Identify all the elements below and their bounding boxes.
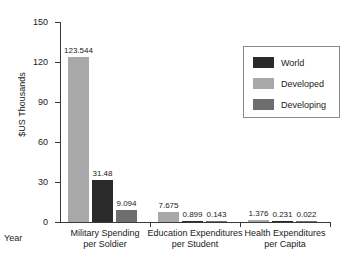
bar-value-label: 31.48 <box>73 170 133 178</box>
bar-developing[interactable] <box>296 221 317 222</box>
y-tick-label-wrap: 150 <box>0 18 60 19</box>
bar-world[interactable] <box>182 221 203 222</box>
legend-swatch-icon <box>253 57 274 68</box>
y-tick-label-wrap: 90 <box>0 98 60 99</box>
bar-developing[interactable] <box>116 210 137 222</box>
bar-value-label: 123.544 <box>49 47 109 55</box>
legend-label: Developing <box>281 100 326 110</box>
bar-developing[interactable] <box>206 221 227 222</box>
bar-developed[interactable] <box>68 57 89 222</box>
y-tick-label-wrap: 60 <box>0 138 60 139</box>
bar-value-label: 0.022 <box>277 211 337 219</box>
y-tick-label: 30 <box>20 178 48 187</box>
bar-group: 123.54431.489.094 <box>60 22 150 222</box>
legend-swatch-icon <box>253 99 274 110</box>
y-tick-label: 150 <box>20 18 48 27</box>
x-axis-line <box>60 222 330 223</box>
legend-label: Developed <box>281 79 324 89</box>
category-label-line: per Capita <box>228 239 342 250</box>
x-tick-mark-end <box>330 222 331 227</box>
y-tick-label-wrap: 0 <box>0 218 60 219</box>
category-label-line: Health Expenditures <box>228 228 342 239</box>
y-tick-label-wrap: 120 <box>0 58 60 59</box>
legend-swatch-icon <box>253 78 274 89</box>
bar-developed[interactable] <box>248 220 269 222</box>
bar-group: 7.6750.8990.143 <box>150 22 240 222</box>
x-tick-mark <box>150 222 151 227</box>
y-axis-title: $US Thousands <box>18 35 27 175</box>
x-tick-mark <box>240 222 241 227</box>
category-label: Health Expendituresper Capita <box>228 228 342 250</box>
bar-world[interactable] <box>272 221 293 222</box>
bar-value-label: 7.675 <box>139 202 199 210</box>
y-tick-label: 0 <box>20 218 48 227</box>
bar-chart: 0306090120150 $US Thousands Year 123.544… <box>0 0 348 264</box>
legend: WorldDevelopedDeveloping <box>243 46 340 118</box>
x-axis-title: Year <box>4 233 22 243</box>
y-tick-label-wrap: 30 <box>0 178 60 179</box>
legend-label: World <box>281 58 304 68</box>
